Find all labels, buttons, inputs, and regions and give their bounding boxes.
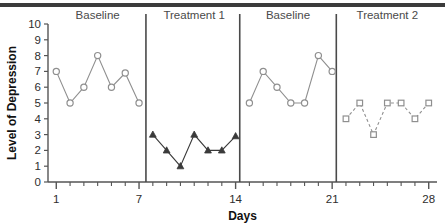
data-point-marker: [371, 132, 377, 138]
phase-label: Treatment 1: [163, 9, 225, 21]
x-axis-tick-label: 28: [422, 193, 435, 205]
x-axis-title: Days: [228, 209, 257, 223]
data-point-marker: [357, 100, 363, 106]
data-point-marker: [274, 84, 280, 90]
y-axis-title: Level of Depression: [5, 46, 19, 160]
series-line: [56, 56, 139, 103]
y-axis-tick-label: 5: [35, 97, 41, 109]
data-point-marker: [301, 100, 307, 106]
y-axis-tick-label: 2: [35, 144, 41, 156]
data-point-marker: [329, 68, 335, 74]
data-point-marker: [343, 116, 349, 122]
data-point-marker: [412, 116, 418, 122]
x-axis-tick-label: 14: [229, 193, 242, 205]
y-axis-tick-label: 6: [35, 81, 41, 93]
data-point-marker: [191, 131, 198, 137]
y-axis-tick-label: 10: [28, 18, 41, 30]
y-axis-tick-label: 0: [35, 176, 41, 188]
y-axis-tick-label: 3: [35, 129, 41, 141]
phase-label: Baseline: [76, 9, 120, 21]
x-axis-tick-label: 7: [136, 193, 142, 205]
data-point-marker: [288, 100, 294, 106]
phase-label: Treatment 2: [357, 9, 419, 21]
single-case-design-chart: 01234567891017142128BaselineTreatment 1B…: [0, 0, 445, 223]
phase-label: Baseline: [266, 9, 310, 21]
series-line: [249, 56, 332, 103]
data-point-marker: [260, 68, 266, 74]
data-point-marker: [232, 133, 239, 139]
y-axis-tick-label: 8: [35, 50, 41, 62]
y-axis-tick-label: 1: [35, 160, 41, 172]
data-point-marker: [81, 84, 87, 90]
data-point-marker: [67, 100, 73, 106]
x-axis-tick-label: 21: [326, 193, 339, 205]
data-point-marker: [149, 131, 156, 137]
data-point-marker: [246, 100, 252, 106]
y-axis-tick-label: 7: [35, 65, 41, 77]
data-point-marker: [95, 53, 101, 59]
chart-canvas: 01234567891017142128BaselineTreatment 1B…: [0, 0, 445, 223]
data-point-marker: [315, 53, 321, 59]
data-point-marker: [385, 100, 391, 106]
data-point-marker: [108, 84, 114, 90]
x-axis-tick-label: 1: [53, 193, 59, 205]
data-point-marker: [398, 100, 404, 106]
y-axis-tick-label: 9: [35, 34, 41, 46]
data-point-marker: [136, 100, 142, 106]
data-point-marker: [53, 68, 59, 74]
data-point-marker: [122, 70, 128, 76]
data-point-marker: [426, 100, 432, 106]
y-axis-tick-label: 4: [35, 113, 42, 125]
